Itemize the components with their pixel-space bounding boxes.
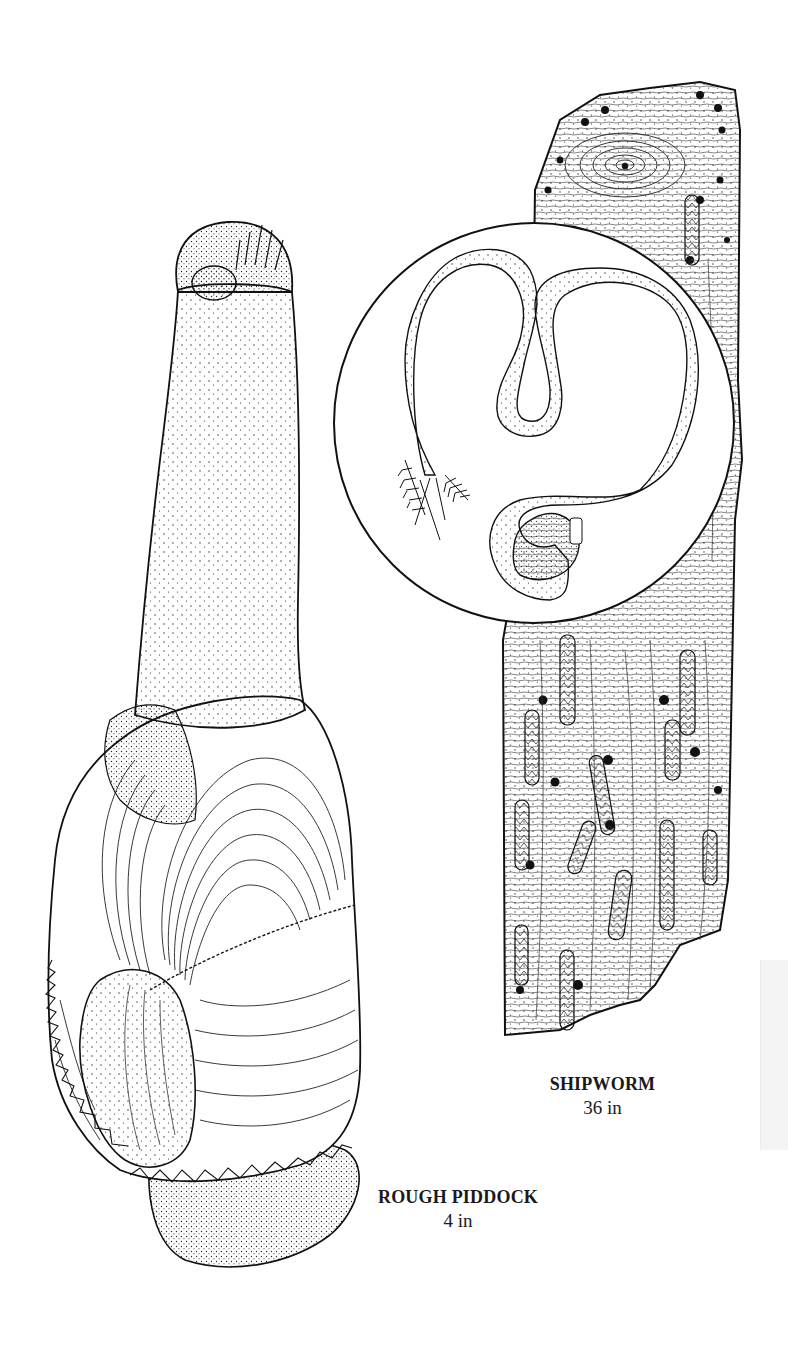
- piddock-siphon-tip: [176, 222, 292, 300]
- scan-edge-artifact: [760, 960, 788, 1150]
- piddock-siphon: [135, 284, 305, 728]
- piddock-name: ROUGH PIDDOCK: [358, 1186, 558, 1209]
- shipworm-name: SHIPWORM: [520, 1073, 685, 1096]
- shipworm-size: 36 in: [520, 1096, 685, 1120]
- shipworm-caption: SHIPWORM 36 in: [520, 1073, 685, 1119]
- piddock-size: 4 in: [358, 1209, 558, 1233]
- rough-piddock: [46, 222, 360, 1267]
- shipworm-inset: [334, 223, 734, 623]
- piddock-caption: ROUGH PIDDOCK 4 in: [358, 1186, 558, 1232]
